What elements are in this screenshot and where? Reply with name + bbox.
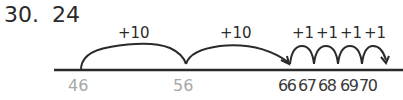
jump-arc-1 bbox=[81, 44, 186, 71]
tick-label-70: 70 bbox=[359, 76, 378, 95]
jump-arc-2 bbox=[186, 45, 288, 64]
jump-label-4: +1 bbox=[316, 24, 338, 42]
tick-label-68: 68 bbox=[318, 76, 337, 95]
jump-label-6: +1 bbox=[364, 24, 386, 42]
jump-arc-4 bbox=[314, 46, 338, 64]
jump-arc-5 bbox=[338, 46, 362, 64]
jump-label-1: +10 bbox=[118, 24, 150, 42]
jump-label-2: +10 bbox=[220, 24, 252, 42]
jump-arc-3 bbox=[290, 46, 314, 64]
tick-label-66: 66 bbox=[278, 76, 297, 95]
tick-label-56: 56 bbox=[173, 76, 193, 95]
tick-label-46: 46 bbox=[68, 76, 88, 95]
jump-label-3: +1 bbox=[292, 24, 314, 42]
number-line-diagram: +10 +10 +1 +1 +1 +1 46 56 66 67 68 69 70 bbox=[0, 0, 403, 100]
tick-label-67: 67 bbox=[298, 76, 316, 95]
jump-label-5: +1 bbox=[340, 24, 362, 42]
jump-arc-6 bbox=[362, 46, 386, 64]
tick-label-69: 69 bbox=[340, 76, 359, 95]
